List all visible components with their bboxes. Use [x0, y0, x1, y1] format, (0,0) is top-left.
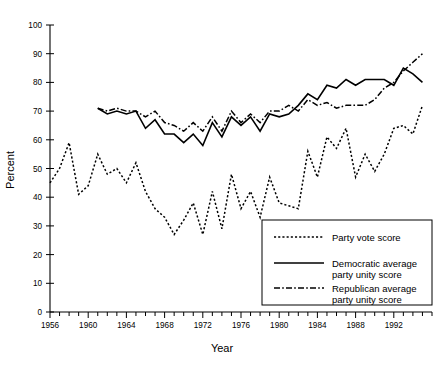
x-tick-label: 1980: [270, 321, 289, 330]
y-tick-label: 80: [33, 78, 43, 87]
x-tick-label: 1976: [232, 321, 251, 330]
legend-label-1[interactable]: Party vote score: [332, 232, 401, 243]
y-tick-label: 60: [33, 136, 43, 145]
x-tick-label: 1972: [194, 321, 213, 330]
data-series: [50, 54, 422, 235]
x-tick-label: 1968: [155, 321, 174, 330]
chart-container: 0102030405060708090100195619601964196819…: [0, 0, 439, 366]
y-tick-label: 0: [37, 308, 42, 317]
series-democratic-unity: [98, 68, 423, 145]
y-tick-label: 50: [33, 165, 43, 174]
chart-legend: Party vote scoreDemocratic averageparty …: [262, 220, 432, 305]
party-unity-line-chart: 0102030405060708090100195619601964196819…: [0, 0, 439, 366]
x-tick-label: 1960: [79, 321, 98, 330]
y-axis-title: Percent: [4, 151, 16, 189]
x-tick-label: 1964: [117, 321, 136, 330]
x-tick-label: 1984: [308, 321, 327, 330]
x-tick-label: 1988: [346, 321, 365, 330]
y-tick-label: 20: [33, 251, 43, 260]
legend-label-3[interactable]: Republican average: [332, 283, 417, 294]
y-tick-label: 90: [33, 50, 43, 59]
x-tick-label: 1956: [41, 321, 60, 330]
y-tick-label: 70: [33, 107, 43, 116]
x-axis-title: Year: [211, 342, 234, 354]
y-tick-label: 10: [33, 279, 43, 288]
legend-label-2[interactable]: Democratic average: [332, 258, 417, 269]
legend-label-3-line2[interactable]: party unity score: [332, 294, 402, 305]
x-tick-label: 1992: [385, 321, 404, 330]
series-republican-unity: [98, 54, 423, 131]
legend-label-2-line2[interactable]: party unity score: [332, 269, 402, 280]
y-tick-label: 40: [33, 193, 43, 202]
series-party-vote: [50, 105, 422, 234]
y-tick-label: 30: [33, 222, 43, 231]
y-tick-label: 100: [28, 21, 42, 30]
